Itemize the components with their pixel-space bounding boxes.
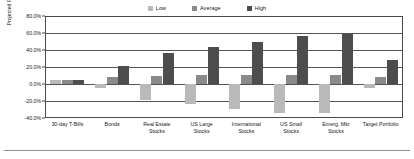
bar-average[interactable] (151, 76, 162, 84)
bar-group-bars (314, 16, 359, 118)
bar-group (314, 16, 359, 118)
bar-high[interactable] (208, 47, 219, 84)
plot-area: 80.0%60.0%40.0%20.0%0.0%-20.0%-40.0% (45, 16, 403, 118)
bar-low[interactable] (229, 84, 240, 109)
legend-swatch-high-icon (247, 6, 252, 11)
legend-swatch-low-icon (148, 6, 153, 11)
projected-return-bar-chart: Low Average High Projected Return 80.0%6… (0, 0, 414, 159)
bar-average[interactable] (375, 77, 386, 84)
bar-high[interactable] (297, 36, 308, 84)
bar-group (358, 16, 403, 118)
footer-divider (4, 150, 410, 151)
bar-group (269, 16, 314, 118)
bar-group-bars (90, 16, 135, 118)
bar-average[interactable] (330, 75, 341, 84)
bar-high[interactable] (252, 42, 263, 85)
bar-average[interactable] (62, 80, 73, 84)
bar-groups (45, 16, 403, 118)
bar-low[interactable] (274, 84, 285, 113)
legend-entry-high[interactable]: High (247, 5, 267, 11)
bar-average[interactable] (107, 77, 118, 84)
bar-high[interactable] (163, 53, 174, 84)
bar-low[interactable] (95, 84, 106, 88)
bar-low[interactable] (50, 80, 61, 84)
bar-group-bars (45, 16, 90, 118)
chart-legend: Low Average High (0, 5, 414, 11)
bar-group (135, 16, 180, 118)
bar-average[interactable] (241, 75, 252, 84)
bar-low[interactable] (364, 84, 375, 88)
bar-group-bars (269, 16, 314, 118)
bar-high[interactable] (73, 80, 84, 84)
y-axis-title: Projected Return (4, 0, 14, 40)
bar-group (90, 16, 135, 118)
legend-label-average: Average (200, 5, 221, 11)
legend-entry-average[interactable]: Average (192, 5, 221, 11)
legend-swatch-average-icon (192, 6, 197, 11)
bar-average[interactable] (286, 75, 297, 84)
bar-high[interactable] (387, 60, 398, 84)
bar-low[interactable] (185, 84, 196, 104)
bar-low[interactable] (140, 84, 151, 100)
bar-group-bars (179, 16, 224, 118)
legend-label-high: High (255, 5, 267, 11)
bar-group-bars (358, 16, 403, 118)
bar-group (45, 16, 90, 118)
legend-entry-low[interactable]: Low (148, 5, 166, 11)
bar-average[interactable] (196, 75, 207, 84)
bar-group-bars (135, 16, 180, 118)
bar-low[interactable] (319, 84, 330, 113)
bar-group (179, 16, 224, 118)
legend-label-low: Low (156, 5, 166, 11)
bar-group (224, 16, 269, 118)
bar-high[interactable] (342, 34, 353, 84)
bar-group-bars (224, 16, 269, 118)
bar-high[interactable] (118, 66, 129, 84)
